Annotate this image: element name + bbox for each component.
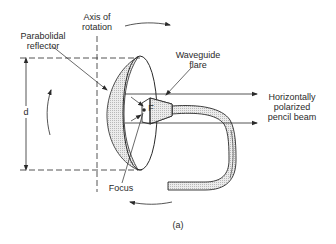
focus-label: Focus (106, 183, 136, 193)
d-dimension-label: d (20, 107, 32, 117)
reflector-leader (52, 46, 107, 90)
rotation-arrow-bottom (130, 202, 172, 204)
axis-of-rotation-label: Axis of rotation (77, 12, 117, 32)
rotation-arrow-top (125, 23, 170, 26)
rotation-arrow-left (47, 90, 51, 135)
waveguide-flare-label: Waveguide flare (175, 50, 221, 70)
focus-point (142, 108, 146, 112)
parabolidal-reflector-label: Parabolidal reflector (18, 31, 68, 51)
flare-leader (166, 67, 192, 95)
focus-point-label: F (147, 103, 155, 113)
figure-caption: (a) (170, 220, 186, 230)
waveguide (168, 106, 236, 190)
parabolic-reflector-shading (107, 57, 138, 170)
pencil-beam-label: Horizontally polarized pencil beam (262, 92, 322, 122)
